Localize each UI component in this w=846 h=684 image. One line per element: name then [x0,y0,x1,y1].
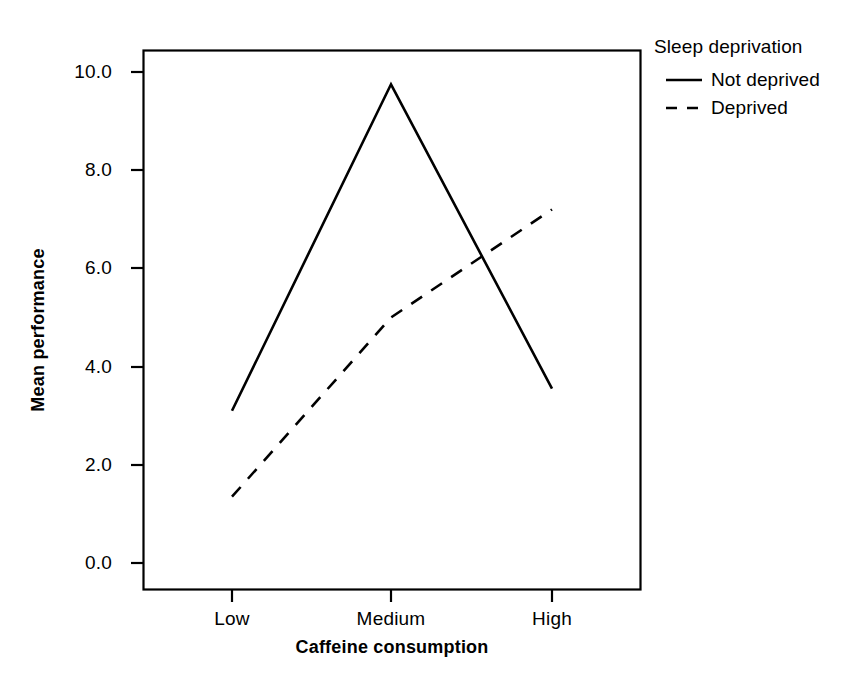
dashed-line-icon [666,101,702,115]
chart-figure: 10.0 8.0 6.0 4.0 2.0 0.0 Low Medium High… [0,0,846,684]
y-axis-ticks [131,72,143,563]
y-tick-label-4: 4.0 [40,356,112,378]
x-axis-title: Caffeine consumption [295,637,488,658]
legend-label-not-deprived: Not deprived [711,69,820,91]
legend: Sleep deprivation Not deprived Deprived [654,36,839,122]
y-tick-label-0: 0.0 [40,552,112,574]
x-tick-label-low: Low [214,608,249,630]
y-tick-label-10: 10.0 [40,61,112,83]
y-tick-label-6: 6.0 [40,257,112,279]
solid-line-icon [666,73,702,87]
y-axis-title: Mean performance [28,248,49,411]
x-axis-ticks [232,590,552,602]
legend-label-deprived: Deprived [711,97,788,119]
y-tick-label-8: 8.0 [40,159,112,181]
x-tick-label-high: High [532,608,572,630]
y-tick-label-2: 2.0 [40,454,112,476]
legend-title: Sleep deprivation [654,36,839,58]
x-tick-label-medium: Medium [357,608,426,630]
legend-entry-deprived: Deprived [654,94,839,122]
plot-panel-border [144,51,641,590]
legend-entry-not-deprived: Not deprived [654,66,839,94]
